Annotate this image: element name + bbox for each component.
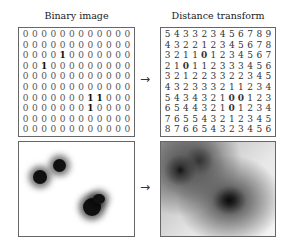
binary-cell: 0 (67, 61, 76, 72)
distance-cell: 2 (209, 103, 218, 114)
distance-cell: 2 (218, 82, 227, 93)
distance-cell: 3 (218, 71, 227, 82)
binary-cell: 0 (40, 82, 49, 93)
distance-cell: 2 (181, 40, 190, 51)
distance-cell: 3 (181, 29, 190, 40)
binary-image-title: Binary image (18, 10, 135, 21)
binary-cell: 0 (77, 50, 86, 61)
distance-transform-grid: 5433234567894322123456783211012345672101… (160, 27, 276, 137)
binary-cell: 0 (123, 82, 132, 93)
binary-cell: 0 (49, 103, 58, 114)
blob-1 (33, 170, 47, 184)
distance-cell: 3 (246, 71, 255, 82)
distance-cell: 1 (218, 93, 227, 104)
distance-cell: 5 (236, 40, 245, 51)
binary-cell: 0 (123, 93, 132, 104)
binary-cell: 0 (114, 40, 123, 51)
distance-cell: 2 (200, 29, 209, 40)
binary-cell: 0 (86, 124, 95, 135)
binary-cell: 0 (95, 50, 104, 61)
binary-cell: 0 (40, 50, 49, 61)
distance-cell: 6 (163, 103, 172, 114)
binary-cell: 0 (77, 114, 86, 125)
distance-cell: 2 (246, 82, 255, 93)
distance-cell: 2 (209, 40, 218, 51)
distance-cell: 1 (200, 40, 209, 51)
distance-cell: 4 (218, 29, 227, 40)
binary-cell: 0 (21, 114, 30, 125)
binary-cell: 0 (104, 29, 113, 40)
binary-cell: 0 (77, 103, 86, 114)
distance-cell: 2 (191, 40, 200, 51)
binary-cell: 1 (40, 61, 49, 72)
distance-cell: 4 (163, 82, 172, 93)
binary-cell: 0 (114, 93, 123, 104)
distance-cell: 1 (209, 50, 218, 61)
distance-cell: 3 (236, 124, 245, 135)
binary-cell: 0 (21, 93, 30, 104)
distance-cell: 7 (172, 124, 181, 135)
distance-cell: 2 (172, 71, 181, 82)
distance-cell: 0 (227, 103, 236, 114)
distance-cell: 3 (200, 103, 209, 114)
distance-transform-title: Distance transform (160, 10, 276, 21)
binary-cell: 0 (58, 82, 67, 93)
binary-cell: 0 (21, 82, 30, 93)
binary-cell: 0 (77, 61, 86, 72)
distance-cell: 6 (181, 124, 190, 135)
distance-cell: 3 (209, 29, 218, 40)
arrow-right-icon: → (140, 72, 150, 86)
distance-cell: 4 (163, 40, 172, 51)
binary-cell: 0 (67, 124, 76, 135)
binary-cell: 0 (40, 40, 49, 51)
binary-cell: 0 (123, 61, 132, 72)
distance-cell: 5 (264, 71, 273, 82)
binary-cell: 0 (104, 50, 113, 61)
distance-cell: 5 (181, 114, 190, 125)
distance-cell: 6 (172, 114, 181, 125)
distance-cell: 7 (246, 29, 255, 40)
binary-cell: 0 (58, 40, 67, 51)
distance-cell: 1 (227, 82, 236, 93)
distance-cell: 3 (264, 93, 273, 104)
distance-cell: 2 (236, 114, 245, 125)
binary-cell: 0 (30, 50, 39, 61)
binary-cell: 0 (86, 29, 95, 40)
binary-cell: 0 (58, 124, 67, 135)
binary-cell: 0 (67, 114, 76, 125)
binary-cell: 0 (30, 40, 39, 51)
binary-cell: 0 (77, 124, 86, 135)
binary-cell: 0 (58, 93, 67, 104)
distance-cell: 4 (200, 114, 209, 125)
distance-cell: 5 (264, 114, 273, 125)
distance-cell: 4 (246, 124, 255, 135)
distance-cell: 6 (255, 50, 264, 61)
blob-3b (93, 194, 105, 204)
distance-cell: 3 (255, 103, 264, 114)
distance-cell: 3 (227, 61, 236, 72)
binary-cell: 0 (104, 61, 113, 72)
distance-cell: 2 (218, 114, 227, 125)
binary-cell: 0 (86, 71, 95, 82)
binary-cell: 0 (21, 71, 30, 82)
binary-cell: 0 (30, 114, 39, 125)
binary-cell: 0 (58, 114, 67, 125)
binary-cell: 0 (114, 61, 123, 72)
distance-cell: 3 (255, 82, 264, 93)
distance-cell: 4 (191, 93, 200, 104)
binary-cell: 1 (86, 103, 95, 114)
binary-cell: 0 (123, 124, 132, 135)
binary-cell: 0 (114, 71, 123, 82)
distance-cell: 5 (200, 124, 209, 135)
binary-cell: 0 (49, 114, 58, 125)
distance-cell: 1 (181, 71, 190, 82)
binary-cell: 0 (86, 82, 95, 93)
distance-cell: 0 (227, 93, 236, 104)
distance-cell: 2 (236, 71, 245, 82)
distance-cell: 1 (227, 114, 236, 125)
distance-cell: 2 (255, 93, 264, 104)
distance-cell: 8 (163, 124, 172, 135)
distance-cell: 4 (191, 103, 200, 114)
binary-cell: 0 (49, 61, 58, 72)
binary-cell: 0 (49, 50, 58, 61)
